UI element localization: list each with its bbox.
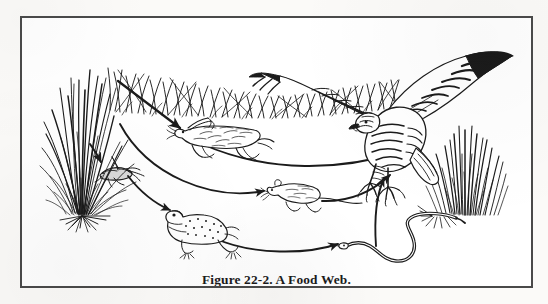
organism-label-grasshopper: grasshopper [0,0,1,1]
organism-label-grass: grass [0,0,1,1]
organism-label-snake: snake [0,0,1,1]
figure-caption: Figure 22-2. A Food Web. [22,272,531,288]
organism-label-rabbit: rabbit [0,0,1,1]
organism-label-frog: frog [0,0,1,1]
food-web-illustration [22,18,531,286]
scanned-page: Figure 22-2. A Food Web. grass grasshopp… [0,0,548,304]
organism-label-hawk: hawk [0,0,1,1]
figure-frame: Figure 22-2. A Food Web. [20,16,533,288]
organism-label-mouse: mouse [0,0,1,1]
